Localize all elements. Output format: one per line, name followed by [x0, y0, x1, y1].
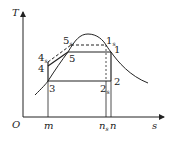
point-2s: 2s [100, 84, 109, 95]
point-3: 3 [49, 84, 55, 94]
ts-diagram: T s O m ns n 1 1s 2 2s 3 4 4s 5 5s [0, 0, 177, 144]
point-1s: 1s [106, 36, 115, 47]
y-axis-label: T [12, 8, 19, 18]
tick-m: m [44, 121, 53, 131]
point-5: 5 [69, 54, 75, 64]
origin-label: O [12, 120, 20, 130]
tick-ns: ns [99, 121, 109, 132]
tick-n: n [110, 121, 116, 131]
line-4s-5s [48, 45, 71, 62]
point-5s: 5s [63, 36, 72, 47]
x-axis-label: s [152, 121, 157, 131]
point-2: 2 [114, 77, 120, 87]
point-4: 4 [38, 64, 44, 74]
point-4s: 4s [38, 53, 47, 64]
diagram-canvas [0, 0, 177, 144]
